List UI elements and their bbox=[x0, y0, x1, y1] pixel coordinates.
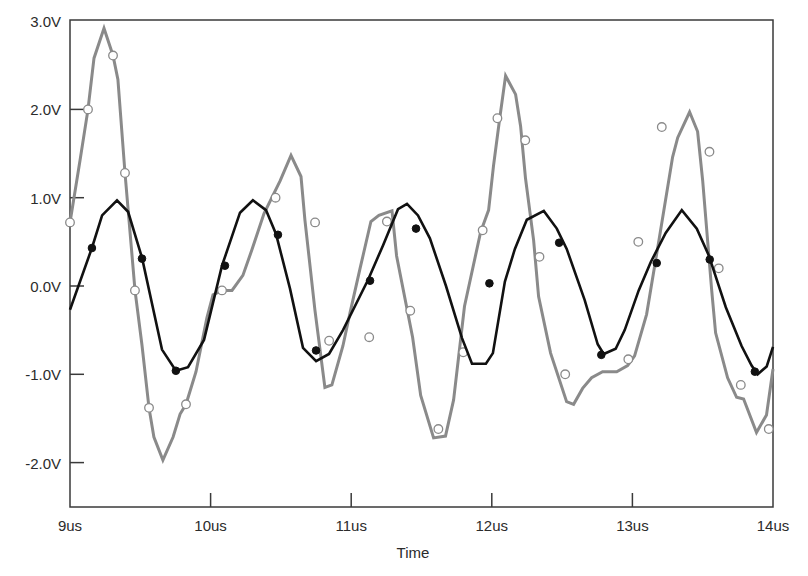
series-layer bbox=[66, 28, 773, 460]
open-circle-marker bbox=[478, 226, 487, 235]
y-tick-label: -2.0V bbox=[25, 455, 61, 472]
y-tick-label: -1.0V bbox=[25, 366, 61, 383]
open-circle-marker bbox=[521, 136, 530, 145]
open-circle-marker bbox=[714, 264, 723, 273]
open-circle-marker bbox=[365, 333, 374, 342]
open-circle-marker bbox=[406, 306, 415, 315]
open-circle-marker bbox=[561, 370, 570, 379]
x-tick-label: 10us bbox=[194, 517, 227, 534]
filled-circle-marker bbox=[653, 259, 661, 267]
open-circle-marker bbox=[131, 286, 140, 295]
y-tick-label: 1.0V bbox=[30, 190, 61, 207]
open-circle-marker bbox=[657, 123, 666, 132]
filled-circle-marker bbox=[274, 231, 282, 239]
y-tick-label: 3.0V bbox=[30, 13, 61, 30]
open-circle-marker bbox=[121, 169, 130, 178]
signal-black-line bbox=[70, 200, 773, 374]
open-circle-marker bbox=[383, 217, 392, 226]
open-circle-marker bbox=[84, 105, 93, 114]
open-circle-marker bbox=[325, 336, 334, 345]
open-circle-marker bbox=[109, 51, 118, 60]
y-tick-label: 2.0V bbox=[30, 101, 61, 118]
filled-circle-marker bbox=[172, 367, 180, 375]
open-circle-marker bbox=[705, 147, 714, 156]
open-circle-marker bbox=[311, 218, 320, 227]
waveform-chart: 3.0V2.0V1.0V0.0V-1.0V-2.0V 9us10us11us12… bbox=[0, 0, 808, 576]
filled-circle-marker bbox=[138, 255, 146, 263]
x-tick-label: 13us bbox=[616, 517, 649, 534]
filled-circle-marker bbox=[706, 256, 714, 264]
filled-circle-marker bbox=[751, 368, 759, 376]
open-circle-marker bbox=[737, 381, 746, 390]
filled-circle-marker bbox=[221, 262, 229, 270]
filled-circle-marker bbox=[555, 239, 563, 247]
x-tick-label: 14us bbox=[757, 517, 790, 534]
open-circle-marker bbox=[624, 355, 633, 364]
filled-circle-marker bbox=[88, 244, 96, 252]
open-circle-marker bbox=[66, 218, 75, 227]
open-circle-marker bbox=[493, 114, 502, 123]
open-circle-marker bbox=[145, 404, 154, 413]
open-circle-marker bbox=[271, 193, 280, 202]
x-tick-label: 11us bbox=[335, 517, 366, 534]
filled-circle-marker bbox=[412, 225, 420, 233]
filled-circle-marker bbox=[366, 277, 374, 285]
x-axis-title: Time bbox=[397, 544, 430, 561]
open-circle-marker bbox=[634, 238, 643, 247]
filled-circle-marker bbox=[598, 351, 606, 359]
y-axis: 3.0V2.0V1.0V0.0V-1.0V-2.0V bbox=[25, 13, 84, 472]
x-tick-label: 12us bbox=[476, 517, 509, 534]
open-circle-marker bbox=[218, 286, 227, 295]
open-circle-marker bbox=[764, 425, 773, 434]
open-circle-marker bbox=[434, 425, 443, 434]
open-circle-marker bbox=[182, 400, 191, 409]
series-signal-gray bbox=[66, 28, 773, 460]
x-tick-label: 9us bbox=[58, 517, 82, 534]
signal-gray-line bbox=[70, 28, 773, 460]
x-axis: 9us10us11us12us13us14us bbox=[58, 493, 789, 534]
filled-circle-marker bbox=[312, 347, 320, 355]
open-circle-marker bbox=[535, 253, 544, 262]
series-signal-black bbox=[70, 200, 773, 375]
y-tick-label: 0.0V bbox=[30, 278, 61, 295]
filled-circle-marker bbox=[486, 280, 494, 288]
